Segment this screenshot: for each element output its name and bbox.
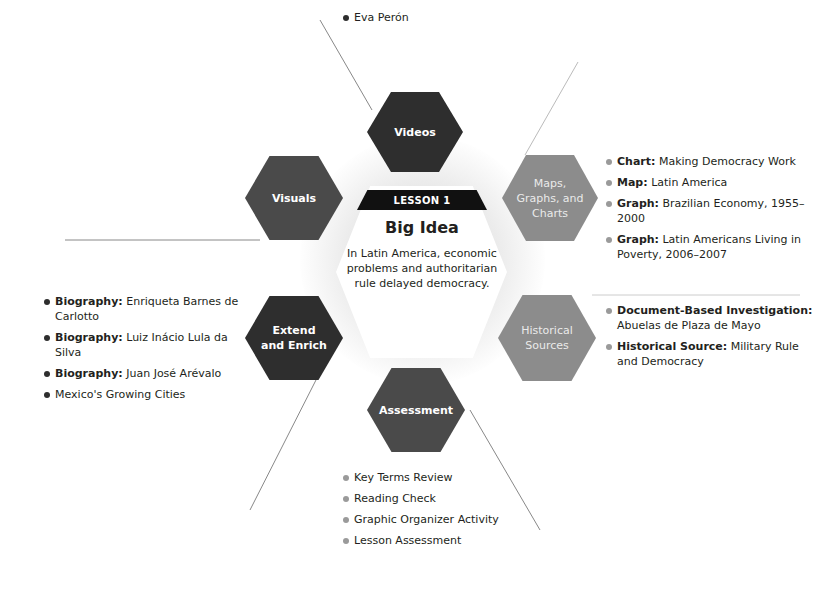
list-item[interactable]: Biography: Luiz Inácio Lula da Silva (44, 330, 244, 360)
extend-enrich-list: Biography: Enriqueta Barnes de Carlotto … (44, 294, 244, 408)
list-item[interactable]: Biography: Juan José Arévalo (44, 366, 244, 381)
list-item[interactable]: Graph: Latin Americans Living in Poverty… (606, 232, 818, 262)
assessment-list: Key Terms Review Reading Check Graphic O… (343, 470, 543, 554)
list-item[interactable]: Map: Latin America (606, 175, 818, 190)
list-item[interactable]: Key Terms Review (343, 470, 543, 485)
list-item[interactable]: Chart: Making Democracy Work (606, 154, 818, 169)
hex-visuals-label: Visuals (272, 191, 316, 206)
hex-maps-label-2: Graphs, and (516, 191, 583, 206)
list-item[interactable]: Graph: Brazilian Economy, 1955–2000 (606, 196, 818, 226)
hex-historical-label-2: Sources (521, 338, 573, 353)
hex-extend-label-2: and Enrich (261, 338, 327, 353)
list-item[interactable]: Biography: Enriqueta Barnes de Carlotto (44, 294, 244, 324)
lesson-label: LESSON 1 (357, 190, 487, 210)
big-idea-title: Big Idea (340, 218, 504, 237)
list-item[interactable]: Graphic Organizer Activity (343, 512, 543, 527)
maps-list: Chart: Making Democracy Work Map: Latin … (606, 154, 818, 268)
lesson-hex-diagram: LESSON 1 Big Idea In Latin America, econ… (0, 0, 820, 593)
hex-extend-label-1: Extend (261, 323, 327, 338)
hex-assessment-label: Assessment (379, 403, 453, 418)
hex-videos-label: Videos (394, 125, 436, 140)
list-item[interactable]: Lesson Assessment (343, 533, 543, 548)
list-item[interactable]: Historical Source: Military Rule and Dem… (606, 339, 818, 369)
list-item[interactable]: Mexico's Growing Cities (44, 387, 244, 402)
big-idea-text: In Latin America, economic problems and … (340, 246, 504, 291)
list-item[interactable]: Reading Check (343, 491, 543, 506)
hex-historical-label-1: Historical (521, 323, 573, 338)
historical-sources-list: Document-Based Investigation: Abuelas de… (606, 303, 818, 375)
list-item[interactable]: Eva Perón (343, 10, 483, 25)
videos-list: Eva Perón (343, 10, 483, 31)
list-item[interactable]: Document-Based Investigation: Abuelas de… (606, 303, 818, 333)
hex-maps-label-3: Charts (516, 206, 583, 221)
hex-maps-label-1: Maps, (516, 176, 583, 191)
